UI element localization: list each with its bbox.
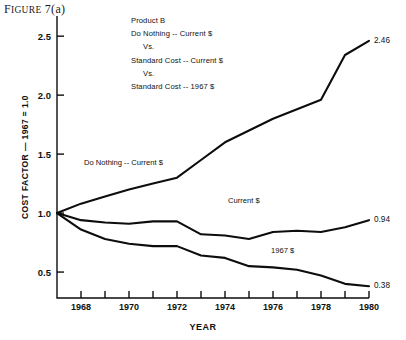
y-tick-label: 0.5	[21, 267, 51, 278]
x-tick-label: 1980	[349, 302, 389, 312]
y-tick-label: 1.5	[21, 149, 51, 160]
series-line-0	[57, 41, 369, 213]
series-end-label-0: 2.46	[374, 36, 390, 45]
series-inline-label-0: Do Nothing -- Current $	[84, 158, 163, 167]
x-tick-label: 1974	[205, 302, 245, 312]
series-inline-label-1: Current $	[228, 196, 260, 205]
series-line-2	[57, 213, 369, 286]
series-end-label-2: 0.38	[374, 281, 390, 290]
plot-area	[0, 0, 406, 340]
x-tick-label: 1978	[301, 302, 341, 312]
x-tick-label: 1976	[253, 302, 293, 312]
x-tick-label: 1972	[157, 302, 197, 312]
figure-root: FIGURE 7(a) COST FACTOR — 1967 = 1.0 YEA…	[0, 0, 406, 340]
series-inline-label-2: 1967 $	[271, 246, 294, 255]
series-line-1	[57, 213, 369, 239]
y-tick-label: 2.5	[21, 31, 51, 42]
y-tick-label: 2.0	[21, 90, 51, 101]
x-tick-label: 1970	[109, 302, 149, 312]
series-end-label-1: 0.94	[374, 215, 390, 224]
y-tick-label: 1.0	[21, 208, 51, 219]
x-tick-label: 1968	[61, 302, 101, 312]
